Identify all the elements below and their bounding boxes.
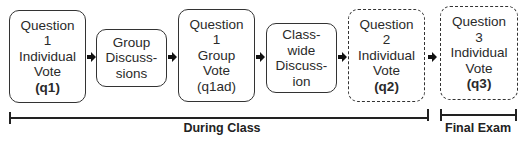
step-text: Group bbox=[198, 48, 236, 64]
step-text: Individual bbox=[358, 48, 415, 64]
step-code: (q3) bbox=[467, 76, 492, 92]
arrow-right-icon bbox=[428, 52, 437, 62]
timeline-label-final-exam: Final Exam bbox=[445, 121, 511, 135]
step-text: Group bbox=[113, 35, 151, 51]
step-text: Discuss- bbox=[276, 58, 328, 74]
step-q3-individual-vote: Question 3 Individual Vote (q3) bbox=[440, 6, 518, 100]
step-text: 1 bbox=[213, 32, 221, 48]
step-text: Question bbox=[189, 17, 243, 33]
step-text: Question bbox=[359, 17, 413, 33]
step-text: Question bbox=[452, 14, 506, 30]
arrow-right-icon bbox=[338, 52, 347, 62]
timeline-during-class-end-tick bbox=[427, 109, 429, 121]
arrow-right-icon bbox=[168, 52, 177, 62]
step-text: Individual bbox=[450, 45, 507, 61]
step-text: Vote bbox=[34, 64, 61, 80]
arrow-right-icon bbox=[87, 52, 96, 62]
step-text: 2 bbox=[383, 32, 391, 48]
step-class-wide-discussion: Class- wide Discuss- ion bbox=[266, 23, 337, 93]
step-text: 1 bbox=[44, 33, 52, 49]
step-text: Vote bbox=[203, 63, 230, 79]
timeline-final-exam-end-tick bbox=[515, 109, 517, 121]
step-q1-individual-vote: Question 1 Individual Vote (q1) bbox=[9, 10, 86, 103]
step-group-discussions: Group Discuss- sions bbox=[96, 29, 167, 87]
step-code: (q2) bbox=[374, 79, 399, 95]
step-text: Question bbox=[20, 18, 74, 34]
timeline-label-during-class: During Class bbox=[183, 121, 260, 135]
step-text: Vote bbox=[373, 63, 400, 79]
arrow-right-icon bbox=[256, 52, 265, 62]
step-text: sions bbox=[116, 66, 148, 82]
step-text: ion bbox=[292, 74, 310, 90]
step-text: wide bbox=[288, 43, 316, 59]
timeline-during-class bbox=[10, 117, 428, 119]
step-text: 3 bbox=[475, 30, 483, 46]
step-q1ad-group-vote: Question 1 Group Vote (q1ad) bbox=[178, 9, 255, 102]
step-text: Discuss- bbox=[106, 50, 158, 66]
step-text: Individual bbox=[19, 49, 76, 65]
step-text: Vote bbox=[465, 61, 492, 77]
step-code: (q1) bbox=[35, 80, 60, 96]
step-q2-individual-vote: Question 2 Individual Vote (q2) bbox=[348, 9, 425, 102]
step-code: (q1ad) bbox=[197, 79, 236, 95]
step-text: Class- bbox=[282, 27, 320, 43]
timeline-final-exam bbox=[441, 114, 517, 116]
